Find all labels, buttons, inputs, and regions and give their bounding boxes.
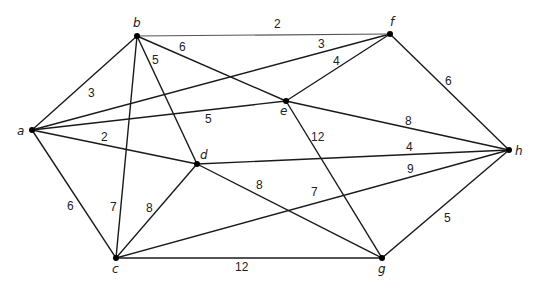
edge-b-f — [137, 34, 390, 36]
edge-weight-b-e: 6 — [179, 40, 186, 54]
edge-weight-f-h: 6 — [445, 74, 452, 88]
node-f — [387, 31, 393, 37]
edge-d-h — [197, 150, 509, 164]
nodes: abcdefgh — [17, 15, 523, 276]
edge-weight-g-h: 5 — [444, 211, 451, 225]
edge-a-d — [32, 130, 197, 164]
node-label-b: b — [133, 16, 141, 30]
weighted-graph: 3352626574812648891257 abcdefgh — [0, 0, 542, 288]
edge-weight-a-d: 2 — [101, 130, 108, 144]
edge-weight-a-e: 5 — [205, 112, 212, 126]
node-label-e: e — [280, 104, 287, 118]
edge-weights: 3352626574812648891257 — [67, 17, 452, 274]
node-label-f: f — [390, 15, 396, 29]
edge-weight-b-d: 5 — [152, 53, 159, 67]
edge-g-h — [382, 150, 509, 258]
node-label-d: d — [200, 148, 208, 162]
node-label-g: g — [378, 262, 386, 276]
edges — [32, 34, 509, 258]
node-g — [379, 255, 385, 261]
node-b — [134, 33, 140, 39]
edge-weight-a-f: 3 — [318, 37, 325, 51]
node-c — [113, 255, 119, 261]
edge-f-h — [390, 34, 509, 150]
edge-weight-e-f: 4 — [333, 54, 340, 68]
edge-weight-e-g: 12 — [311, 130, 325, 144]
edge-weight-a-c: 6 — [67, 199, 74, 213]
edge-weight-a-b: 3 — [88, 86, 95, 100]
edge-weight-d-h: 4 — [406, 140, 413, 154]
edge-weight-e-h: 8 — [405, 114, 412, 128]
edge-c-h — [116, 150, 509, 258]
node-label-h: h — [515, 144, 523, 158]
edge-weight-c-h: 9 — [407, 162, 414, 176]
edge-weight-c-d: 8 — [146, 201, 153, 215]
edge-weight-label: 7 — [311, 185, 318, 199]
edge-weight-b-f: 2 — [274, 17, 281, 31]
edge-weight-c-g: 12 — [235, 260, 249, 274]
node-h — [506, 147, 512, 153]
edge-c-d — [116, 164, 197, 258]
edge-a-c — [32, 130, 116, 258]
edge-weight-b-c: 7 — [110, 200, 117, 214]
edge-a-e — [32, 101, 286, 130]
edge-weight-d-g: 8 — [256, 178, 263, 192]
edge-e-g — [286, 101, 382, 258]
node-label-a: a — [17, 124, 24, 138]
node-label-c: c — [112, 262, 119, 276]
node-a — [29, 127, 35, 133]
edge-b-c — [116, 36, 137, 258]
